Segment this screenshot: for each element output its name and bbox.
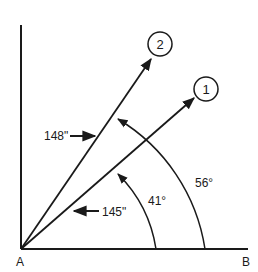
angle-label-41: 41° [148,194,166,208]
vector-2-line [21,59,151,249]
angle-label-56: 56° [195,176,213,190]
length-label-145: 145" [102,205,126,219]
vector-1-marker: 1 [194,77,218,101]
angle-arc-56 [118,119,205,249]
length-label-148: 148" [44,129,68,143]
point-b-label: B [242,255,250,269]
vector-angle-diagram: 2 1 41° 56° 148" 145" A B [0,0,258,272]
point-a-label: A [16,255,24,269]
vector-2-label: 2 [156,37,163,52]
vector-1-line [21,98,194,249]
vector-1-label: 1 [202,82,209,97]
vector-2-marker: 2 [148,32,172,56]
